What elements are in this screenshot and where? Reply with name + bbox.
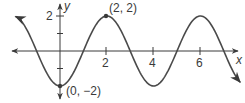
point-min — [58, 84, 62, 88]
tick-label-y-2: 2 — [46, 9, 53, 23]
tick-label-x-4: 4 — [149, 56, 156, 70]
tick-label-x-2: 2 — [102, 56, 109, 70]
x-axis-label: x — [235, 53, 243, 67]
tick-label-x-6: 6 — [196, 56, 203, 70]
point-min-label: (0, −2) — [66, 84, 101, 98]
point-max-label: (2, 2) — [109, 1, 137, 15]
graph: 2 4 6 2 y x (2, 2) (0, −2) — [0, 0, 245, 103]
y-axis-label: y — [63, 0, 71, 13]
point-max — [104, 14, 108, 18]
